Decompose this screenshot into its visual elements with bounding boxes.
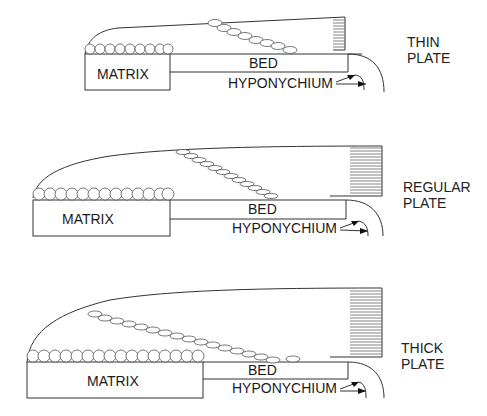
matrix-label: MATRIX [97, 66, 150, 82]
hyponychium-arrows [336, 75, 366, 90]
bed-label: BED [248, 201, 277, 217]
diagonal-cells [176, 150, 278, 199]
fingertip-curve [348, 54, 384, 92]
hyponychium-arrows [340, 382, 366, 398]
nail-plate-diagram: MATRIX BED HYPONYCHIUM THIN PLATE [0, 0, 487, 416]
thin-plate-diagram: MATRIX BED HYPONYCHIUM THIN PLATE [85, 17, 450, 92]
plate-type-label-line2: PLATE [403, 195, 446, 211]
plate-type-label-line1: REGULAR [403, 179, 471, 195]
hyponychium-arrows [340, 221, 368, 236]
distal-layers [350, 291, 382, 354]
regular-plate-diagram: MATRIX BED HYPONYCHIUM REGULAR PLATE [33, 146, 471, 236]
matrix-label: MATRIX [62, 211, 115, 227]
hyponychium-label: HYPONYCHIUM [228, 75, 333, 91]
hyponychium-label: HYPONYCHIUM [232, 380, 337, 396]
diagonal-cells [208, 20, 297, 54]
plate-type-label-line1: THICK [401, 340, 444, 356]
matrix-cells [27, 350, 204, 362]
matrix-cells [85, 44, 173, 54]
bed-label: BED [249, 55, 278, 71]
hyponychium-label: HYPONYCHIUM [232, 220, 337, 236]
plate-type-label-line2: PLATE [407, 50, 450, 66]
distal-layers [350, 148, 382, 193]
distal-layers [333, 20, 345, 47]
plate-type-label-line2: PLATE [401, 356, 444, 372]
bed-label: BED [248, 362, 277, 378]
matrix-label: MATRIX [87, 373, 140, 389]
matrix-cells [33, 188, 174, 200]
thick-plate-diagram: MATRIX BED HYPONYCHIUM THICK PLATE [27, 288, 444, 398]
plate-type-label-line1: THIN [407, 34, 440, 50]
